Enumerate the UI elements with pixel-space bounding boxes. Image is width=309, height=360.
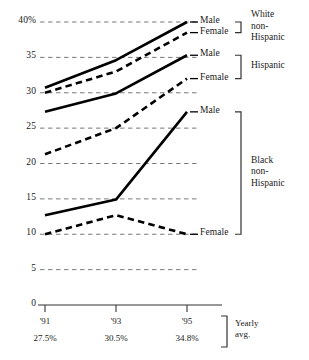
group-label: Whitenon-Hispanic <box>251 9 285 44</box>
yearly-avg-value: 30.5% <box>88 333 144 343</box>
group-bracket <box>235 55 241 78</box>
yearly-avg-note-line: avg. <box>235 329 259 340</box>
yearly-avg-value: 34.8% <box>159 333 215 343</box>
series-end-label: Male <box>200 105 220 115</box>
group-label-line: Hispanic <box>251 32 285 44</box>
group-label-line: Hispanic <box>251 178 285 190</box>
y-axis-tick-label: 5 <box>2 263 36 273</box>
series-end-label: Female <box>200 227 229 237</box>
y-axis-tick-label: 35 <box>2 50 36 60</box>
yearly-avg-value: 27.5% <box>17 333 73 343</box>
series-end-label: Female <box>200 26 229 36</box>
series-line <box>45 33 187 93</box>
y-axis-tick-label: 10 <box>2 227 36 237</box>
series-end-label: Female <box>200 72 229 82</box>
line-chart: 40%35302520151050 '91'93'95 27.5%30.5%34… <box>0 0 309 360</box>
yearly-avg-note-text: Yearlyavg. <box>235 318 259 339</box>
x-axis-group <box>38 305 222 312</box>
series-end-label: Male <box>200 15 220 25</box>
group-bracket <box>235 112 241 234</box>
series-line <box>45 79 187 155</box>
group-bracket-set <box>235 22 241 234</box>
y-axis-tick-label: 0 <box>2 298 36 308</box>
series-end-label: Male <box>200 48 220 58</box>
group-label: Hispanic <box>251 60 285 72</box>
x-axis-tick-label: '95 <box>162 316 212 326</box>
y-axis-tick-label: 30 <box>2 86 36 96</box>
yearly-avg-note-line: Yearly <box>235 318 259 329</box>
x-axis-tick-label: '91 <box>20 316 70 326</box>
group-bracket <box>235 22 241 33</box>
group-label-line: Hispanic <box>251 60 285 72</box>
y-axis-tick-label: 20 <box>2 157 36 167</box>
series-line <box>45 22 187 88</box>
y-axis-tick-label: 40% <box>2 15 36 25</box>
group-label-line: non- <box>251 166 285 178</box>
group-label: Blacknon-Hispanic <box>251 155 285 190</box>
group-label-line: Black <box>251 155 285 167</box>
series-line <box>45 55 187 112</box>
y-axis-tick-label: 15 <box>2 192 36 202</box>
yearly-avg-bracket-path <box>221 316 227 347</box>
y-axis-tick-label: 25 <box>2 121 36 131</box>
x-axis-tick-label: '93 <box>91 316 141 326</box>
group-label-line: non- <box>251 21 285 33</box>
yearly-avg-bracket <box>221 316 227 347</box>
group-label-line: White <box>251 9 285 21</box>
series-line <box>45 215 187 234</box>
